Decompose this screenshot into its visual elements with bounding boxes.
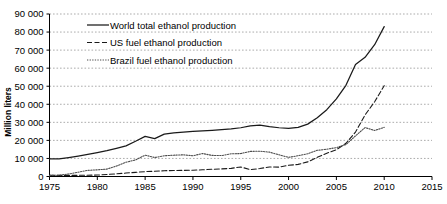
y-tick-label: 40 000 bbox=[14, 99, 43, 110]
x-tick-label: 2015 bbox=[421, 181, 442, 192]
y-tick-label: 20 000 bbox=[14, 135, 43, 146]
y-tick-label: 50 000 bbox=[14, 81, 43, 92]
y-tick-label: 10 000 bbox=[14, 153, 43, 164]
y-tick-label: 30 000 bbox=[14, 117, 43, 128]
y-tick-label: 60 000 bbox=[14, 63, 43, 74]
y-tick-label: 90 000 bbox=[14, 8, 43, 19]
chart-canvas: 010 00020 00030 00040 00050 00060 00070 … bbox=[0, 0, 447, 204]
y-tick-label: 80 000 bbox=[14, 26, 43, 37]
x-axis-tick-labels: 197519801985199019952000200520102015 bbox=[39, 181, 443, 192]
legend-label: Brazil fuel ethanol production bbox=[110, 55, 233, 66]
x-tick-label: 1995 bbox=[230, 181, 251, 192]
y-tick-label: 70 000 bbox=[14, 45, 43, 56]
legend-label: World total ethanol production bbox=[110, 20, 236, 31]
x-tick-label: 1980 bbox=[87, 181, 108, 192]
ethanol-production-line-chart: 010 00020 00030 00040 00050 00060 00070 … bbox=[0, 0, 447, 204]
x-tick-label: 1990 bbox=[182, 181, 203, 192]
x-tick-label: 2000 bbox=[278, 181, 299, 192]
x-tick-label: 1985 bbox=[135, 181, 156, 192]
x-tick-label: 2010 bbox=[374, 181, 395, 192]
x-tick-label: 2005 bbox=[326, 181, 347, 192]
x-tick-label: 1975 bbox=[39, 181, 60, 192]
legend-label: US fuel ethanol production bbox=[110, 37, 222, 48]
y-axis-title: Million liters bbox=[3, 87, 13, 137]
chart-legend: World total ethanol productionUS fuel et… bbox=[87, 20, 236, 66]
